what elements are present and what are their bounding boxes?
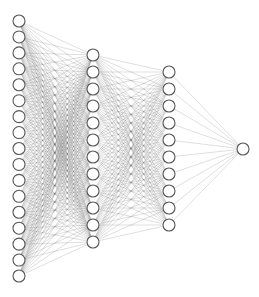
connection-edge [19,72,93,276]
connection-edge [169,72,243,149]
input-neuron [13,15,25,27]
connection-edge [169,106,243,149]
hidden-2-neuron [163,185,175,197]
neural-network-diagram [0,0,259,297]
input-neuron [13,47,25,59]
connection-edge [169,89,243,149]
input-neuron [13,31,25,43]
connection-edge [19,106,93,228]
hidden-1-neuron [87,185,99,197]
input-neuron [13,254,25,266]
input-neuron [13,270,25,282]
hidden-2-neuron [163,168,175,180]
connection-edge [169,149,243,174]
hidden-1-neuron [87,83,99,95]
input-neuron [13,63,25,75]
connection-edge [169,149,243,157]
connection-edge [93,225,169,242]
hidden-1-neuron [87,202,99,214]
hidden-1-neuron [87,236,99,248]
hidden-2-neuron [163,134,175,146]
input-neuron [13,79,25,91]
connection-edge [169,149,243,191]
hidden-2-neuron [163,219,175,231]
input-neuron [13,111,25,123]
hidden-1-neuron [87,117,99,129]
input-neuron [13,158,25,170]
connection-edge [93,55,169,72]
hidden-1-neuron [87,100,99,112]
hidden-1-neuron [87,168,99,180]
input-neuron [13,127,25,139]
hidden-2-neuron [163,66,175,78]
connection-edge [93,123,169,242]
hidden-2-neuron [163,202,175,214]
hidden-1-neuron [87,49,99,61]
connection-edge [169,149,243,208]
connection-edge [169,149,243,225]
hidden-2-neuron [163,117,175,129]
hidden-2-neuron [163,151,175,163]
connections [19,21,243,276]
connection-edge [169,123,243,149]
hidden-1-neuron [87,151,99,163]
input-neuron [13,222,25,234]
input-neuron [13,143,25,155]
input-neuron [13,190,25,202]
hidden-1-neuron [87,219,99,231]
input-neuron [13,206,25,218]
connection-edge [169,140,243,149]
connection-edge [93,89,169,242]
input-neuron [13,174,25,186]
hidden-2-neuron [163,83,175,95]
input-neuron [13,95,25,107]
hidden-1-neuron [87,134,99,146]
input-neuron [13,238,25,250]
hidden-2-neuron [163,100,175,112]
hidden-1-neuron [87,66,99,78]
connection-edge [19,140,93,276]
output-neuron [237,143,249,155]
